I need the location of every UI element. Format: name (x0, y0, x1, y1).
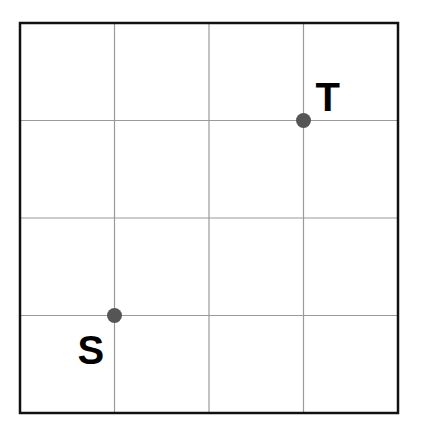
point-s (107, 308, 122, 323)
label-s: S (78, 328, 105, 372)
grid-diagram: S T (0, 0, 421, 430)
label-t: T (316, 75, 340, 119)
point-t (296, 113, 311, 128)
